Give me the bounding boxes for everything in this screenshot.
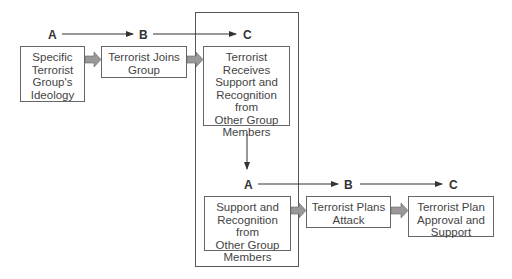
- block-arrow-3: [291, 203, 306, 218]
- block-arrow-2: [187, 52, 203, 67]
- arrows-layer: [0, 0, 512, 279]
- block-arrow-1: [85, 52, 101, 67]
- block-arrow-4: [391, 203, 408, 218]
